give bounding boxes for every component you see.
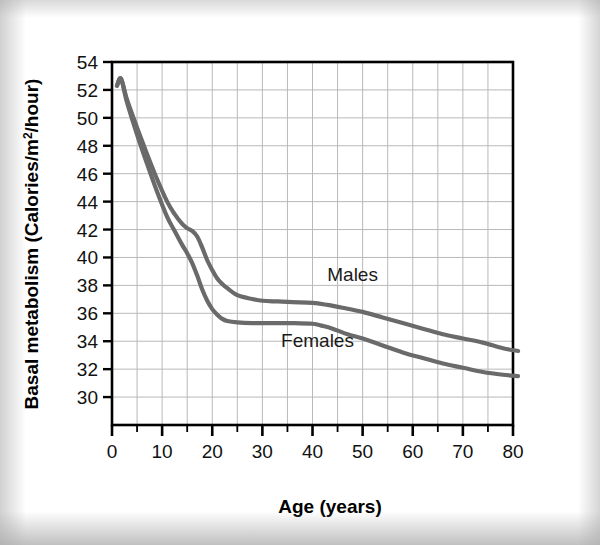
chart-figure: 30323436384042444648505254 0102030405060…: [0, 0, 600, 545]
y-tick-label: 52: [77, 80, 98, 101]
y-tick-label: 32: [77, 359, 98, 380]
chart-canvas: 30323436384042444648505254 0102030405060…: [0, 0, 600, 545]
y-tick-label: 46: [77, 164, 98, 185]
y-tick-label: 38: [77, 275, 98, 296]
y-tick-labels: 30323436384042444648505254: [77, 52, 99, 408]
x-tick-label: 40: [302, 441, 323, 462]
series-annotation-females: Females: [281, 330, 354, 351]
y-tick-label: 34: [77, 331, 99, 352]
x-tick-label: 10: [152, 441, 173, 462]
basal-metabolism-line-chart: 30323436384042444648505254 0102030405060…: [0, 0, 600, 545]
y-axis-title: Basal metabolism (Calories/m2/hour): [21, 79, 42, 410]
x-tick-label: 60: [402, 441, 423, 462]
x-tick-label: 70: [452, 441, 473, 462]
y-tick-label: 40: [77, 247, 98, 268]
x-tick-label: 80: [502, 441, 523, 462]
x-tick-label: 30: [252, 441, 273, 462]
x-tick-label: 20: [202, 441, 223, 462]
y-tick-label: 30: [77, 387, 98, 408]
x-tick-labels: 01020304050607080: [107, 441, 524, 462]
y-tick-label: 54: [77, 52, 99, 73]
series-annotation-males: Males: [327, 264, 378, 285]
y-axis-title-after: /hour): [21, 79, 42, 133]
y-tick-label: 50: [77, 108, 98, 129]
x-tick-label: 50: [352, 441, 373, 462]
y-tick-label: 36: [77, 303, 98, 324]
y-tick-label: 42: [77, 220, 98, 241]
y-tick-label: 48: [77, 136, 98, 157]
y-axis-title-before: Basal metabolism (Calories/m: [21, 139, 42, 409]
x-tick-label: 0: [107, 441, 118, 462]
y-tick-label: 44: [77, 192, 99, 213]
x-axis-title: Age (years): [278, 496, 382, 517]
